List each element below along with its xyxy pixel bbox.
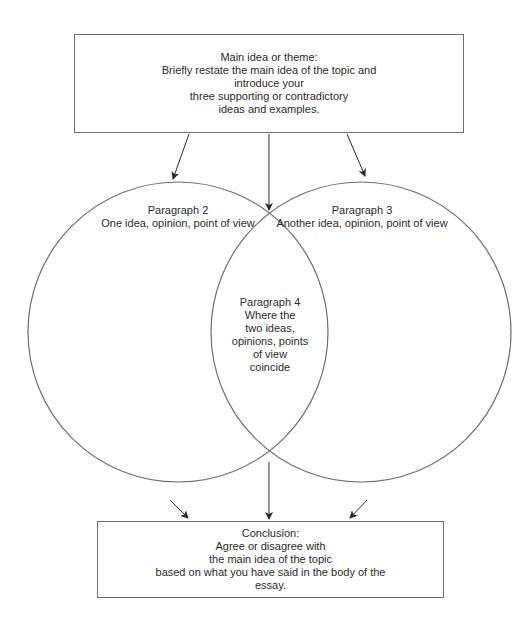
arrow-right-circle-to-conclusion <box>350 500 367 518</box>
arrow-top-to-right-circle <box>347 134 365 176</box>
paragraph-2-heading: Paragraph 2 <box>78 204 278 217</box>
conclusion-text-line: based on what you have said in the body … <box>156 566 386 579</box>
paragraph-4-text-line: Where the <box>219 309 321 322</box>
paragraph-2-label: Paragraph 2 One idea, opinion, point of … <box>78 204 278 230</box>
paragraph-4-text-line: of view <box>219 348 321 361</box>
main-idea-text-line: three supporting or contradictory <box>190 90 348 103</box>
paragraph-2-text: One idea, opinion, point of view <box>78 217 278 230</box>
conclusion-box: Conclusion: Agree or disagree with the m… <box>97 521 444 598</box>
conclusion-text-line: Agree or disagree with <box>215 540 325 553</box>
paragraph-3-label: Paragraph 3 Another idea, opinion, point… <box>262 204 462 230</box>
main-idea-text-line: introduce your <box>234 77 304 90</box>
main-idea-text-line: ideas and examples. <box>219 103 320 116</box>
paragraph-4-text-line: two ideas, <box>219 322 321 335</box>
main-idea-text-line: Briefly restate the main idea of the top… <box>162 64 377 77</box>
paragraph-4-text-line: opinions, points <box>219 335 321 348</box>
arrow-top-to-left-circle <box>173 134 189 179</box>
paragraph-4-text-line: coincide <box>219 361 321 374</box>
paragraph-3-heading: Paragraph 3 <box>262 204 462 217</box>
conclusion-heading: Conclusion: <box>242 527 299 540</box>
conclusion-text-line: essay. <box>255 579 286 592</box>
arrow-left-circle-to-conclusion <box>170 500 188 518</box>
main-idea-box: Main idea or theme: Briefly restate the … <box>74 34 464 133</box>
paragraph-4-label: Paragraph 4 Where the two ideas, opinion… <box>219 296 321 374</box>
paragraph-4-heading: Paragraph 4 <box>219 296 321 309</box>
main-idea-heading: Main idea or theme: <box>220 51 317 64</box>
paragraph-3-text: Another idea, opinion, point of view <box>262 217 462 230</box>
conclusion-text-line: the main idea of the topic <box>209 553 332 566</box>
